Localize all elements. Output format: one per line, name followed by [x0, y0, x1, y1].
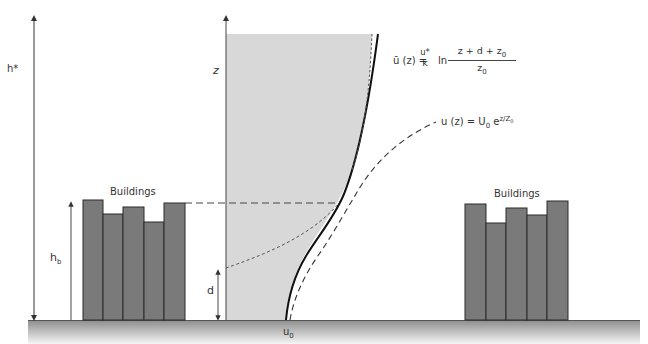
exp-eq-exponent-sub: 0: [510, 118, 513, 124]
hb-subscript: b: [57, 258, 61, 266]
log-eq-ln: ln: [438, 55, 447, 66]
fraction-numerator: z + d + z0: [448, 45, 516, 59]
building: [164, 203, 185, 320]
log-eq-coef: u* k: [419, 47, 431, 68]
u0-label: u0: [283, 326, 294, 340]
building: [465, 204, 486, 320]
coef-numerator: u*: [419, 47, 431, 57]
exp-profile-equation: u (z) = U0 ez/Z0: [441, 115, 513, 130]
buildings-right: [465, 201, 568, 320]
building: [83, 200, 103, 320]
building: [506, 208, 527, 320]
diagram-canvas: [0, 0, 648, 344]
log-eq-fraction: z + d + z0 z0: [448, 45, 516, 76]
hb-label: hb: [50, 251, 61, 266]
building: [527, 215, 547, 320]
ground: [28, 320, 640, 344]
coef-denominator: k: [419, 57, 431, 68]
numerator-sub: 0: [502, 51, 506, 59]
exp-eq-lhs: u (z) = U: [441, 116, 486, 127]
building: [144, 222, 164, 320]
h-star-label: h*: [7, 63, 18, 74]
z-axis-label: z: [213, 64, 219, 77]
exp-eq-exponent: z/Z: [499, 115, 510, 123]
u0-subscript: 0: [289, 332, 293, 340]
exp-eq-lhs-sub: 0: [486, 122, 490, 130]
fraction-denominator: z0: [448, 60, 516, 76]
hb-main: h: [50, 251, 57, 264]
buildings-right-label: Buildings: [494, 188, 540, 199]
building: [486, 223, 506, 320]
denominator-sub: 0: [482, 68, 486, 76]
building: [103, 214, 123, 320]
wind-profile-diagram: h* hb z d u0 Buildings Buildings ū (z) =…: [0, 0, 648, 344]
buildings-left: [83, 200, 185, 320]
building: [547, 201, 568, 320]
building: [123, 207, 144, 320]
numerator-text: z + d + z: [458, 45, 502, 56]
buildings-left-label: Buildings: [110, 186, 156, 197]
d-label: d: [207, 284, 214, 297]
